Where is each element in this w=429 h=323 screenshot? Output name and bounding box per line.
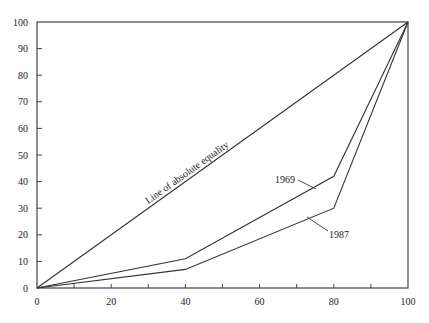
y-tick-label: 50 (18, 150, 28, 161)
y-tick-label: 20 (18, 229, 28, 240)
y-tick-label: 10 (18, 256, 28, 267)
y-tick-label: 30 (18, 203, 28, 214)
x-tick-label: 40 (180, 296, 190, 307)
x-tick-label: 0 (35, 296, 40, 307)
x-tick-label: 80 (329, 296, 339, 307)
x-tick-label: 20 (106, 296, 116, 307)
y-tick-label: 60 (18, 123, 28, 134)
lorenz-curve-chart: 0204060801000102030405060708090100 Line … (0, 0, 429, 323)
label-1987: 1987 (329, 229, 349, 240)
equality-line-label: Line of absolute equality (143, 139, 230, 206)
leader-line-1969 (298, 180, 316, 189)
label-1969: 1969 (275, 174, 295, 185)
y-tick-label: 70 (18, 96, 28, 107)
y-tick-label: 90 (18, 43, 28, 54)
x-tick-label: 100 (401, 296, 416, 307)
x-tick-label: 60 (255, 296, 265, 307)
series-lines (37, 22, 408, 288)
leader-line-1987 (307, 217, 328, 231)
y-tick-label: 0 (23, 283, 28, 294)
y-tick-label: 80 (18, 70, 28, 81)
series-line-line-of-absolute-equality (37, 22, 408, 288)
y-tick-label: 100 (13, 17, 28, 28)
y-tick-label: 40 (18, 176, 28, 187)
